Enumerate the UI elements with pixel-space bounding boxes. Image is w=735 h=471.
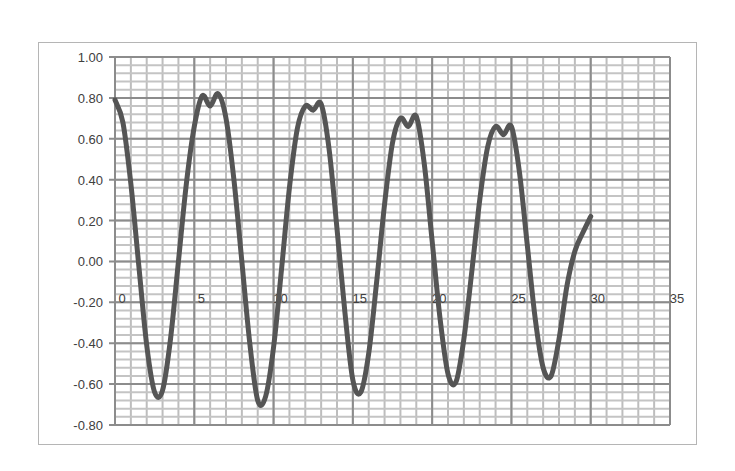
x-tick-label: 30 <box>590 291 604 306</box>
x-tick-label: 35 <box>670 291 684 306</box>
y-tick-label: 0.60 <box>78 132 103 147</box>
y-tick-label: 1.00 <box>78 50 103 65</box>
y-tick-label: -0.80 <box>73 418 103 433</box>
x-tick-label: 25 <box>511 291 525 306</box>
y-tick-label: 0.80 <box>78 91 103 106</box>
y-tick-label: -0.20 <box>73 295 103 310</box>
y-tick-label: 0.20 <box>78 214 103 229</box>
y-tick-label: -0.60 <box>73 377 103 392</box>
x-tick-label: 0 <box>118 291 125 306</box>
y-tick-label: 0.40 <box>78 173 103 188</box>
y-tick-label: 0.00 <box>78 254 103 269</box>
major-gridlines <box>109 57 670 425</box>
y-tick-label: -0.40 <box>73 336 103 351</box>
x-tick-label: 15 <box>353 291 367 306</box>
x-tick-label: 5 <box>198 291 205 306</box>
y-axis-tick-labels: 1.000.800.600.400.200.00-0.20-0.40-0.60-… <box>73 50 103 433</box>
line-chart: 1.000.800.600.400.200.00-0.20-0.40-0.60-… <box>0 0 735 471</box>
